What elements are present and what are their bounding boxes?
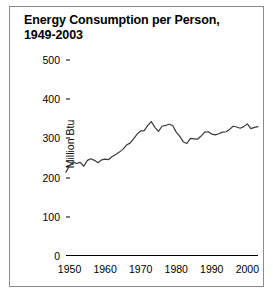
- y-tick-label-500: 500: [42, 54, 60, 66]
- series-line-chart: [66, 60, 258, 256]
- x-tick-label-1990: 1990: [200, 263, 223, 275]
- chart-figure: Energy Consumption per Person, 1949-2003…: [0, 0, 273, 294]
- x-tick-label-1950: 1950: [58, 263, 81, 275]
- y-tick-label-100: 100: [42, 211, 60, 223]
- x-tick-label-1960: 1960: [93, 263, 116, 275]
- y-tick-label-400: 400: [42, 93, 60, 105]
- chart-title-line-1: Energy Consumption per Person,: [24, 13, 220, 27]
- plot-area: Million Btu 0100200300400500 19501960197…: [66, 60, 258, 256]
- y-tick-label-300: 300: [42, 132, 60, 144]
- y-tick-label-200: 200: [42, 172, 60, 184]
- y-tick-label-0: 0: [54, 250, 60, 262]
- x-tick-label-2000: 2000: [236, 263, 259, 275]
- page-title: Energy Consumption per Person, 1949-2003: [24, 13, 249, 43]
- chart-title-line-2: 1949-2003: [24, 28, 249, 43]
- series-polyline: [66, 122, 258, 173]
- x-tick-label-1980: 1980: [165, 263, 188, 275]
- x-tick-label-1970: 1970: [129, 263, 152, 275]
